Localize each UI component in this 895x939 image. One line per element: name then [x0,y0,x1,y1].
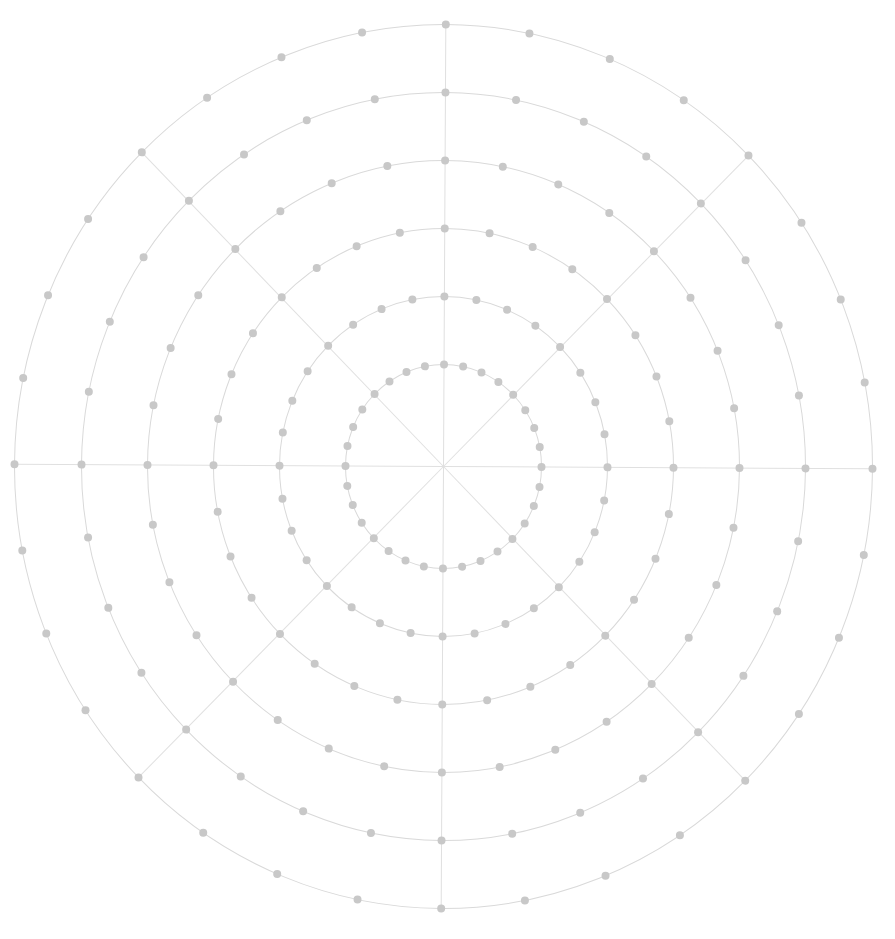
grid-node [274,716,282,724]
grid-node [730,404,738,412]
grid-node [795,391,803,399]
grid-node [773,607,781,615]
grid-node [278,495,286,503]
grid-node [278,293,286,301]
grid-node [493,548,501,556]
grid-node [575,558,583,566]
grid-node [192,631,200,639]
grid-node [551,746,559,754]
grid-node [149,401,157,409]
grid-node [680,96,688,104]
grid-node [566,661,574,669]
grid-node [530,604,538,612]
grid-node [185,197,193,205]
grid-node [420,562,428,570]
grid-node [537,463,545,471]
grid-node [440,360,448,368]
grid-node [642,153,650,161]
grid-node [248,594,256,602]
grid-node [438,768,446,776]
grid-node [143,461,151,469]
grid-node [797,219,805,227]
grid-node [472,296,480,304]
grid-node [385,377,393,385]
grid-node [525,29,533,37]
grid-node [371,390,379,398]
grid-node [665,417,673,425]
grid-node [669,464,677,472]
grid-node [512,96,520,104]
grid-node [396,229,404,237]
grid-node [860,551,868,559]
grid-node [138,148,146,156]
grid-node [554,180,562,188]
grid-node [521,406,529,414]
grid-node [521,520,529,528]
grid-node [18,547,26,555]
grid-node [408,296,416,304]
grid-node [441,88,449,96]
grid-node [240,150,248,158]
grid-node [81,706,89,714]
grid-node [42,630,50,638]
grid-node [275,462,283,470]
grid-node [227,552,235,560]
grid-node [378,305,386,313]
grid-node [631,331,639,339]
grid-node [167,344,175,352]
grid-node [441,156,449,164]
grid-node [605,209,613,217]
grid-node [358,405,366,413]
grid-node [440,292,448,300]
grid-node [499,163,507,171]
grid-node [835,634,843,642]
grid-node [273,870,281,878]
grid-node [214,415,222,423]
grid-node [149,521,157,529]
grid-node [536,443,544,451]
grid-node [694,728,702,736]
grid-node [85,388,93,396]
grid-node [227,370,235,378]
grid-node [343,442,351,450]
grid-node [393,696,401,704]
grid-node [182,726,190,734]
grid-node [603,295,611,303]
grid-node [104,604,112,612]
grid-node [600,496,608,504]
grid-node [439,632,447,640]
grid-node [10,460,18,468]
grid-node [438,700,446,708]
grid-node [231,245,239,253]
grid-node [685,634,693,642]
grid-node [508,535,516,543]
grid-node [483,696,491,704]
grid-node [84,534,92,542]
grid-node [203,94,211,102]
grid-node [486,229,494,237]
grid-node [380,762,388,770]
grid-node [603,718,611,726]
grid-node [328,179,336,187]
grid-node [509,391,517,399]
grid-node [602,872,610,880]
grid-node [249,329,257,337]
grid-node [350,682,358,690]
grid-node [686,294,694,302]
grid-node [214,508,222,516]
grid-node [576,369,584,377]
grid-node [535,483,543,491]
grid-node [442,20,450,28]
grid-node [401,557,409,565]
grid-node [861,378,869,386]
grid-node [438,836,446,844]
grid-node [477,368,485,376]
grid-node [591,398,599,406]
grid-node [530,502,538,510]
grid-node [371,95,379,103]
grid-node [868,465,876,473]
grid-node [303,556,311,564]
grid-node [288,527,296,535]
grid-node [650,247,658,255]
grid-node [601,632,609,640]
